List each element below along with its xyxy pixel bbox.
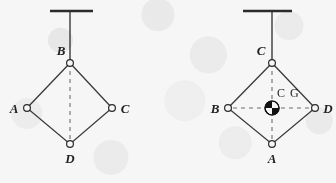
vertex-label-a-right: A	[267, 151, 277, 166]
vertex-hole-c-left	[109, 105, 116, 112]
vertex-label-b-left: B	[56, 43, 66, 58]
vertex-label-b-right: B	[210, 101, 220, 116]
right-panel: C G C B D A	[210, 11, 334, 166]
vertex-hole-b-right	[225, 105, 232, 112]
vertex-hole-b-left	[67, 60, 74, 67]
vertex-hole-d-right	[312, 105, 319, 112]
vertex-label-c-left: C	[121, 101, 130, 116]
cg-text-label: C G	[277, 86, 300, 100]
vertex-hole-c-right	[269, 60, 276, 67]
center-of-gravity-marker	[265, 101, 279, 115]
physics-figure-center-of-gravity: B A C D C G C B D A	[0, 0, 336, 183]
left-panel: B A C D	[9, 11, 130, 166]
vertex-label-c-right: C	[257, 43, 266, 58]
vertex-label-a-left: A	[9, 101, 19, 116]
vertex-hole-a-right	[269, 141, 276, 148]
vertex-hole-a-left	[24, 105, 31, 112]
vertex-label-d-left: D	[64, 151, 75, 166]
vertex-hole-d-left	[67, 141, 74, 148]
vertex-label-d-right: D	[322, 101, 333, 116]
